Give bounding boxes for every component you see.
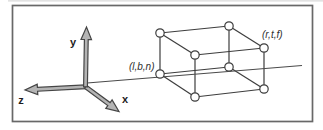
z-axis-arrow	[25, 84, 86, 95]
box-edge-GE	[160, 74, 195, 97]
near-corner-label: (l,b,n)	[129, 61, 155, 72]
far-corner-label: (r,t,f)	[262, 29, 283, 40]
y-axis-label: y	[70, 36, 77, 48]
view-volume-box-vertices	[156, 22, 268, 101]
box-edge-CA	[160, 33, 195, 55]
figure-canvas: z x y (l,b,n) (r,t,f)	[0, 0, 323, 130]
box-edge-BD	[229, 26, 264, 48]
box-edge-HG	[195, 89, 264, 97]
y-axis-arrow	[81, 27, 92, 87]
z-axis-label: z	[18, 94, 24, 106]
box-vertex-E	[156, 70, 164, 78]
x-axis-label: x	[122, 93, 129, 105]
view-volume-box-edges	[160, 26, 264, 97]
box-vertex-G	[191, 93, 199, 101]
box-vertex-D	[260, 44, 268, 52]
figure-frame	[13, 6, 313, 122]
x-axis-arrow	[84, 85, 119, 111]
box-vertex-C	[191, 51, 199, 59]
box-vertex-H	[260, 85, 268, 93]
box-vertex-B	[225, 22, 233, 30]
box-edge-AB	[160, 26, 229, 33]
box-vertex-F	[225, 63, 233, 71]
box-vertex-A	[156, 29, 164, 37]
view-volume-diagram: z x y (l,b,n) (r,t,f)	[0, 0, 323, 130]
